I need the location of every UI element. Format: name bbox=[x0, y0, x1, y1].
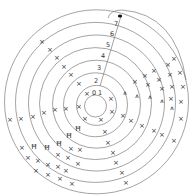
start-dot-icon bbox=[118, 15, 122, 18]
turn-label: 6 bbox=[110, 30, 114, 38]
cross-mark-icon: × bbox=[98, 116, 104, 124]
cross-mark-icon: × bbox=[30, 113, 36, 121]
cross-mark-icon: × bbox=[108, 95, 114, 103]
glyph-mark-icon: Ħ bbox=[66, 132, 72, 140]
cross-mark-icon: × bbox=[178, 98, 184, 106]
cross-mark-icon: × bbox=[102, 128, 108, 136]
cross-mark-icon: × bbox=[35, 157, 41, 165]
cross-mark-icon: × bbox=[47, 46, 53, 54]
glyph-mark-icon: ⩚ bbox=[148, 93, 152, 101]
cross-mark-icon: × bbox=[151, 67, 157, 75]
cross-mark-icon: × bbox=[69, 180, 75, 188]
turn-label: 3 bbox=[97, 64, 101, 72]
cross-mark-icon: × bbox=[113, 159, 119, 167]
cross-mark-icon: × bbox=[45, 171, 51, 179]
cross-mark-icon: × bbox=[167, 71, 173, 79]
cross-mark-icon: × bbox=[180, 83, 186, 91]
cross-mark-icon: × bbox=[52, 106, 58, 114]
cross-mark-icon: × bbox=[19, 144, 25, 152]
cross-mark-icon: × bbox=[63, 167, 69, 175]
glyph-mark-icon: Ħ bbox=[44, 144, 50, 152]
turn-label: 1 bbox=[98, 89, 102, 97]
cross-mark-icon: × bbox=[178, 115, 184, 123]
cross-mark-icon: × bbox=[171, 137, 177, 145]
glyph-mark-icon: ⩚ bbox=[160, 97, 164, 105]
cross-mark-icon: × bbox=[139, 122, 145, 130]
turn-label: 0 bbox=[92, 89, 96, 97]
cross-mark-icon: × bbox=[61, 63, 67, 71]
cross-mark-icon: × bbox=[55, 163, 61, 171]
cross-mark-icon: × bbox=[18, 115, 24, 123]
glyph-mark-icon: Ħ bbox=[75, 125, 81, 133]
cross-mark-icon: × bbox=[171, 55, 177, 63]
cross-mark-icon: × bbox=[145, 81, 151, 89]
cross-mark-icon: × bbox=[77, 146, 83, 154]
cross-mark-icon: × bbox=[54, 54, 60, 62]
glyph-mark-icon: Ħ bbox=[31, 143, 37, 151]
cross-mark-icon: × bbox=[84, 90, 90, 98]
cross-mark-icon: × bbox=[65, 154, 71, 162]
turn-label: 5 bbox=[106, 41, 110, 49]
cross-mark-icon: × bbox=[128, 117, 134, 125]
cross-mark-icon: × bbox=[120, 112, 126, 120]
cross-mark-icon: × bbox=[169, 83, 175, 91]
cross-mark-icon: × bbox=[75, 160, 81, 168]
cross-mark-icon: × bbox=[68, 145, 74, 153]
cross-mark-icon: × bbox=[39, 38, 45, 46]
cross-mark-icon: × bbox=[123, 179, 129, 187]
cross-mark-icon: × bbox=[55, 151, 61, 159]
cross-mark-icon: × bbox=[63, 105, 69, 113]
glyph-mark-icon: Ħ bbox=[56, 140, 62, 148]
cross-mark-icon: × bbox=[159, 131, 165, 139]
cross-mark-icon: × bbox=[119, 169, 125, 177]
turn-label: 2 bbox=[94, 77, 98, 85]
cross-mark-icon: × bbox=[165, 61, 171, 69]
cross-mark-icon: × bbox=[168, 95, 174, 103]
cross-mark-icon: × bbox=[57, 175, 63, 183]
cross-mark-icon: × bbox=[109, 108, 115, 116]
cross-mark-icon: × bbox=[151, 127, 157, 135]
glyph-mark-icon: ⩚ bbox=[123, 89, 127, 97]
turn-label: 7 bbox=[114, 20, 118, 28]
cross-mark-icon: × bbox=[25, 154, 31, 162]
cross-mark-icon: × bbox=[159, 85, 165, 93]
cross-mark-icon: × bbox=[132, 78, 138, 86]
glyph-mark-icon: ⩚ bbox=[135, 92, 139, 100]
cross-mark-icon: × bbox=[105, 139, 111, 147]
cross-mark-icon: × bbox=[82, 115, 88, 123]
turn-label: 4 bbox=[101, 52, 105, 60]
cross-mark-icon: × bbox=[177, 69, 183, 77]
cross-mark-icon: × bbox=[110, 149, 116, 157]
cross-mark-icon: × bbox=[45, 161, 51, 169]
cross-mark-icon: × bbox=[76, 103, 82, 111]
cross-mark-icon: × bbox=[7, 116, 13, 124]
cross-mark-icon: × bbox=[33, 167, 39, 175]
glyph-mark-icon: ⩚ bbox=[170, 104, 174, 112]
spiral-svg: 01234567××××××××××××××××××××××××××××××××… bbox=[0, 0, 191, 195]
cross-mark-icon: × bbox=[68, 71, 74, 79]
spiral-diagram: 01234567××××××××××××××××××××××××××××××××… bbox=[0, 0, 191, 195]
cross-mark-icon: × bbox=[156, 76, 162, 84]
cross-mark-icon: × bbox=[41, 109, 47, 117]
cross-mark-icon: × bbox=[76, 80, 82, 88]
cross-mark-icon: × bbox=[142, 72, 148, 80]
